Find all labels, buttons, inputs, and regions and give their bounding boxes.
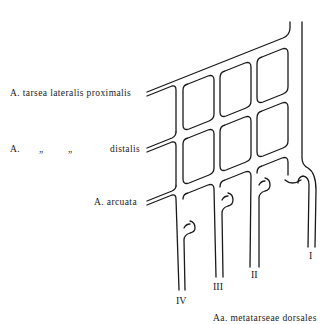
label-metatarseae-dorsales: Aa. metatarseae dorsales	[213, 313, 317, 323]
vessel-II-top-wall	[257, 158, 288, 176]
vessel-IV-right-wall	[184, 221, 195, 290]
box-r1c2	[220, 63, 251, 117]
distalis-lower-wall	[147, 142, 176, 186]
label-arcuata: A. arcuata	[94, 197, 137, 207]
label-ditto-mark-2: „	[68, 144, 73, 154]
label-distalis: distalis	[110, 144, 140, 154]
vessel-III-top-wall	[220, 172, 251, 268]
vessel-III-right-wall	[222, 193, 233, 277]
label-vessel-II: II	[251, 269, 258, 280]
box-r1c1	[183, 76, 214, 130]
label-distalis-prefix: A.	[10, 144, 20, 154]
label-ditto-mark-1: „	[39, 144, 44, 154]
proximalis-lower-wall	[147, 86, 176, 132]
box-r2c3	[257, 103, 288, 157]
label-vessel-I: I	[309, 250, 312, 261]
label-tarsea-lateralis-proximalis: A. tarsea lateralis proximalis	[10, 88, 131, 98]
vessel-II-perforating	[259, 181, 265, 185]
vessel-IV-perforating	[184, 224, 190, 228]
box-r1c3	[257, 49, 288, 103]
vessel-II-right-wall	[259, 178, 270, 267]
box-r2c1	[183, 130, 214, 184]
label-vessel-IV: IV	[176, 295, 187, 306]
top-outer-vessel-wall	[147, 22, 290, 92]
arcuata-lower-wall	[147, 195, 179, 290]
box-r2c2	[220, 117, 251, 171]
vessel-I-left-wall	[298, 176, 309, 247]
label-vessel-III: III	[213, 281, 223, 292]
vessel-IV-inner-wall	[183, 185, 216, 278]
vessel-III-perforating	[222, 196, 228, 200]
